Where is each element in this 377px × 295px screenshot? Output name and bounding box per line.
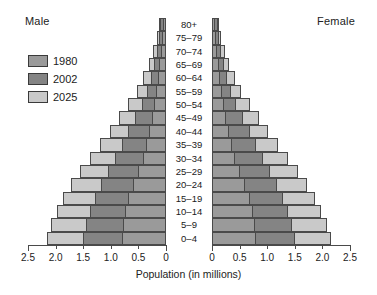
age-group-label: 20–24 xyxy=(166,178,212,191)
pyramid-row xyxy=(28,111,166,124)
bar-male-1980-45–49 xyxy=(152,111,166,124)
male-bars-panel xyxy=(28,18,166,245)
bar-male-1980-35–39 xyxy=(146,138,166,151)
age-group-label: 30–34 xyxy=(166,152,212,165)
x-tick xyxy=(56,245,57,249)
bar-female-1980-50–54 xyxy=(212,98,224,111)
pyramid-row xyxy=(212,98,350,111)
x-tick-label: 2.0 xyxy=(43,252,69,263)
x-tick xyxy=(111,245,112,249)
x-tick-label: 2.5 xyxy=(337,252,363,263)
pyramid-row xyxy=(28,218,166,231)
bar-male-1980-30–34 xyxy=(143,152,166,165)
x-tick xyxy=(295,245,296,249)
pyramid-row xyxy=(212,192,350,205)
pyramid-row xyxy=(28,58,166,71)
x-tick xyxy=(240,245,241,249)
bar-male-1980-15–19 xyxy=(128,192,166,205)
pyramid-row xyxy=(28,85,166,98)
female-bars-panel xyxy=(212,18,350,245)
x-tick-label: 2.0 xyxy=(309,252,335,263)
age-group-label: 40–44 xyxy=(166,125,212,138)
bar-male-1980-50–54 xyxy=(154,98,166,111)
bar-male-1980-55–59 xyxy=(156,85,166,98)
pyramid-row xyxy=(212,125,350,138)
pyramid-row xyxy=(28,125,166,138)
x-tick xyxy=(138,245,139,249)
bar-female-1980-0–4 xyxy=(212,232,256,245)
x-tick-label: 1.5 xyxy=(282,252,308,263)
age-group-label: 35–39 xyxy=(166,138,212,151)
x-tick xyxy=(350,245,351,251)
pyramid-row xyxy=(212,152,350,165)
bar-female-1980-75–79 xyxy=(212,31,216,44)
x-tick-label: 0 xyxy=(153,252,179,263)
pyramid-row xyxy=(212,58,350,71)
bar-female-1980-55–59 xyxy=(212,85,222,98)
population-pyramid-chart: Male Female 198020022025 80+75–7970–7465… xyxy=(0,0,377,295)
age-group-label: 10–14 xyxy=(166,205,212,218)
pyramid-row xyxy=(212,85,350,98)
age-group-label: 15–19 xyxy=(166,192,212,205)
x-axis-line-female xyxy=(212,245,350,246)
pyramid-row xyxy=(28,178,166,191)
x-tick xyxy=(267,245,268,249)
bar-female-1980-40–44 xyxy=(212,125,229,138)
pyramid-row xyxy=(212,178,350,191)
age-group-label: 65–69 xyxy=(166,58,212,71)
bar-male-1980-10–14 xyxy=(125,205,166,218)
bar-female-1980-60–64 xyxy=(212,71,220,84)
x-tick xyxy=(83,245,84,249)
pyramid-row xyxy=(28,192,166,205)
bar-male-1980-60–64 xyxy=(158,71,166,84)
pyramid-row xyxy=(212,18,350,31)
pyramid-row xyxy=(28,152,166,165)
x-tick-label: 1.0 xyxy=(98,252,124,263)
bar-male-1980-75–79 xyxy=(162,31,166,44)
age-group-label: 50–54 xyxy=(166,98,212,111)
age-group-label: 60–64 xyxy=(166,71,212,84)
pyramid-row xyxy=(28,138,166,151)
bar-female-1980-80+ xyxy=(212,18,215,31)
bar-female-1980-5–9 xyxy=(212,218,255,231)
x-tick-label: 0.5 xyxy=(125,252,151,263)
age-group-label: 70–74 xyxy=(166,45,212,58)
pyramid-row xyxy=(212,31,350,44)
pyramid-row xyxy=(28,232,166,245)
age-group-label: 45–49 xyxy=(166,111,212,124)
x-tick xyxy=(28,245,29,251)
pyramid-row xyxy=(28,45,166,58)
x-tick-label: 0.5 xyxy=(227,252,253,263)
pyramid-row xyxy=(28,31,166,44)
x-tick-label: 0 xyxy=(199,252,225,263)
age-group-label: 25–29 xyxy=(166,165,212,178)
pyramid-row xyxy=(212,218,350,231)
pyramid-row xyxy=(212,205,350,218)
pyramid-row xyxy=(212,232,350,245)
bar-female-1980-30–34 xyxy=(212,152,235,165)
bar-female-1980-70–74 xyxy=(212,45,217,58)
age-group-axis: 80+75–7970–7465–6960–6455–5950–5445–4940… xyxy=(166,18,212,245)
pyramid-row xyxy=(28,98,166,111)
bar-male-1980-0–4 xyxy=(122,232,166,245)
pyramid-row xyxy=(212,71,350,84)
x-tick-label: 2.5 xyxy=(15,252,41,263)
pyramid-row xyxy=(212,165,350,178)
x-tick xyxy=(166,245,167,251)
bar-female-1980-25–29 xyxy=(212,165,240,178)
bar-female-1980-15–19 xyxy=(212,192,250,205)
bar-female-1980-10–14 xyxy=(212,205,253,218)
x-axis-title: Population (in millions) xyxy=(0,268,377,280)
bar-female-1980-45–49 xyxy=(212,111,226,124)
pyramid-row xyxy=(212,111,350,124)
pyramid-row xyxy=(28,71,166,84)
bar-male-1980-65–69 xyxy=(159,58,166,71)
bar-female-1980-20–24 xyxy=(212,178,245,191)
age-group-label: 0–4 xyxy=(166,232,212,245)
x-tick xyxy=(322,245,323,249)
bar-male-1980-70–74 xyxy=(161,45,166,58)
pyramid-row xyxy=(212,138,350,151)
x-tick-label: 1.5 xyxy=(70,252,96,263)
age-group-label: 75–79 xyxy=(166,31,212,44)
bar-male-1980-40–44 xyxy=(149,125,166,138)
